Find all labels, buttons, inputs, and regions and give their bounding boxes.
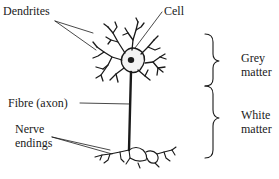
neuron-drawing — [0, 0, 279, 179]
dendrites-label: Dendrites — [3, 5, 50, 18]
neuron-diagram: Dendrites Cell Fibre (axon) Nerve ending… — [0, 0, 279, 179]
white-matter-label-line1: White — [241, 109, 270, 122]
axon — [129, 72, 131, 150]
nerve-endings-label-line2: endings — [15, 137, 52, 150]
nerve-endings — [95, 147, 176, 168]
grey-matter-label-line1: Grey — [241, 52, 265, 65]
fibre-axon-label: Fibre (axon) — [8, 97, 68, 110]
grey-matter-brace — [205, 34, 219, 86]
grey-matter-label-line2: matter — [241, 66, 272, 79]
cell-label: Cell — [164, 5, 184, 18]
white-matter-label-line2: matter — [241, 123, 272, 136]
white-matter-brace — [205, 86, 219, 158]
leader-lines — [52, 12, 162, 154]
nerve-endings-label-line1: Nerve — [15, 123, 44, 136]
